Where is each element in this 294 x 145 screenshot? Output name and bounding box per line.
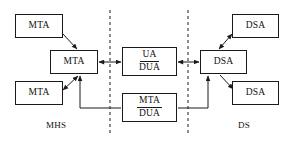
node-label-bottom: DUA [137,62,162,73]
node-ua-dua[interactable]: UA DUA [122,47,177,76]
zone-label-ds: DS [238,120,250,130]
node-label: MTA [29,21,50,31]
node-label: MTA [64,57,85,67]
connection-mta-bottomleft-to-mta-center [63,76,78,90]
node-label: DSA [246,21,266,31]
node-label: MTA [29,88,50,98]
node-dsa-center-right[interactable]: DSA [200,50,247,74]
node-mta-bottom-left[interactable]: MTA [15,81,63,105]
connection-mta-topleft-to-mta-center [63,34,77,49]
diagram-canvas: MTA MTA MTA UA DUA MTA DUA DSA DSA DSA M… [0,0,294,145]
node-mta-center-left[interactable]: MTA [50,50,98,74]
node-mta-dua[interactable]: MTA DUA [122,93,177,122]
node-mta-top-left[interactable]: MTA [15,14,63,38]
node-label-top: MTA [137,96,162,108]
connection-mta-dua-to-dsa-center [178,76,208,108]
node-label: DSA [246,88,266,98]
connection-dsa-center-to-dsa-topright [219,34,232,49]
node-label-top: UA [140,50,158,62]
connection-mta-dua-to-mta-center [80,76,121,108]
node-dsa-bottom-right[interactable]: DSA [232,81,279,105]
node-label-bottom: DUA [137,108,162,119]
node-label: DSA [214,57,234,67]
node-dsa-top-right[interactable]: DSA [232,14,279,38]
zone-label-mhs: MHS [46,120,66,130]
